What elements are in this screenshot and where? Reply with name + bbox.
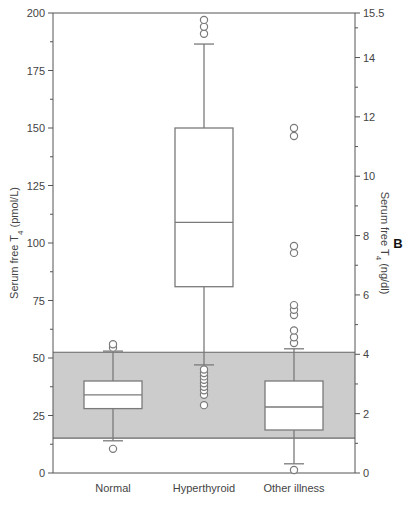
y2-tick-label: 12 — [363, 111, 375, 123]
y2-tick-label: 2 — [363, 408, 369, 420]
outlier-point — [200, 16, 207, 23]
outlier-point — [109, 445, 116, 452]
y2-axis-title: Serum free T4 (ng/dl) — [375, 192, 392, 295]
box-hyperthyroid — [175, 16, 233, 408]
box-other-illness — [265, 124, 323, 473]
y-tick-label: 100 — [27, 237, 45, 249]
y-tick-label: 0 — [39, 467, 45, 479]
y2-tick-label: 15.5 — [363, 7, 384, 19]
outlier-point — [200, 23, 207, 30]
outlier-point — [290, 302, 297, 309]
y2-tick-label: 6 — [363, 289, 369, 301]
y-tick-label: 50 — [33, 352, 45, 364]
y-tick-label: 200 — [27, 7, 45, 19]
y2-tick-label: 10 — [363, 170, 375, 182]
outlier-point — [200, 30, 207, 37]
outlier-point — [290, 132, 297, 139]
category-label: Normal — [95, 482, 130, 494]
y2-tick-label: 0 — [363, 467, 369, 479]
y2-tick-label: 4 — [363, 348, 369, 360]
outlier-point — [200, 366, 207, 373]
outlier-point — [290, 242, 297, 249]
iqr-box — [175, 128, 233, 287]
category-label: Other illness — [263, 482, 325, 494]
y2-tick-label: 14 — [363, 52, 375, 64]
outlier-point — [290, 466, 297, 473]
outlier-point — [290, 124, 297, 131]
y-tick-label: 75 — [33, 295, 45, 307]
boxplot-chart: 02550751001251501752000246810121415.5 No… — [0, 0, 410, 506]
outlier-point — [109, 341, 116, 348]
y2-tick-label: 8 — [363, 230, 369, 242]
y-tick-label: 175 — [27, 65, 45, 77]
y-axis-title: Serum free T4 (pmol/L) — [8, 187, 25, 299]
outlier-point — [290, 249, 297, 256]
y-tick-label: 125 — [27, 180, 45, 192]
y-tick-label: 150 — [27, 122, 45, 134]
category-label: Hyperthyroid — [173, 482, 235, 494]
outlier-point — [200, 402, 207, 409]
outlier-point — [290, 327, 297, 334]
outlier-point — [290, 334, 297, 341]
y-tick-label: 25 — [33, 410, 45, 422]
iqr-box — [265, 381, 323, 430]
panel-label: B — [393, 236, 402, 251]
